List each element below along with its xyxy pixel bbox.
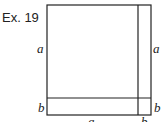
left-side-label-b: b: [38, 100, 45, 116]
left-side-label-a: a: [37, 41, 44, 57]
right-side-label-b: b: [154, 100, 161, 116]
bottom-label-a: a: [88, 114, 95, 122]
bottom-label-b: b: [141, 114, 148, 122]
right-side-label-a: a: [153, 41, 160, 57]
square-diagram: [0, 0, 161, 122]
